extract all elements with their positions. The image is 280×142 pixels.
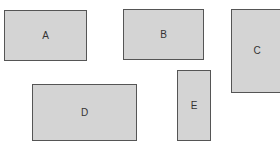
rectangle-c-label: C	[253, 46, 260, 56]
rectangle-d: D	[32, 84, 137, 141]
rectangle-a-label: A	[42, 31, 49, 41]
rectangle-e: E	[177, 70, 211, 141]
rectangle-b-label: B	[160, 30, 167, 40]
rectangle-a: A	[4, 10, 87, 61]
rectangle-d-label: D	[81, 108, 88, 118]
rectangle-b: B	[123, 9, 204, 60]
rectangle-c: C	[231, 9, 280, 93]
rectangle-e-label: E	[191, 101, 198, 111]
